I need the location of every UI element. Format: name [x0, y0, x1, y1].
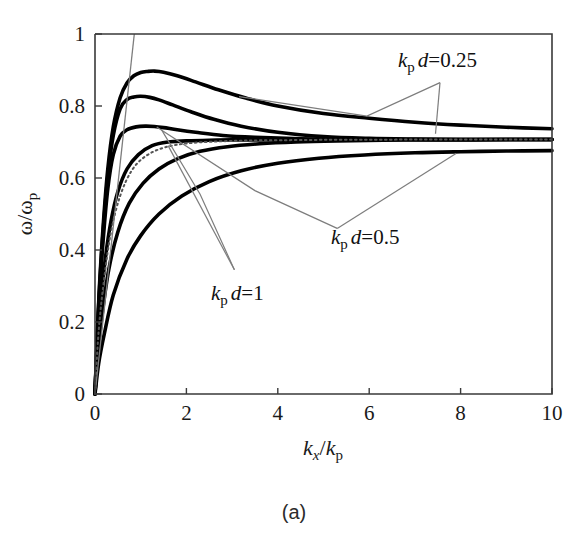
y-tick-label-0.2: 0.2 — [59, 310, 85, 334]
y-axis-omega2: ω — [12, 200, 37, 214]
ann025-sub: p — [407, 59, 415, 75]
y-tick-label-1: 1 — [75, 22, 86, 46]
ann05-sub: p — [340, 236, 348, 252]
y-tick-label-0: 0 — [75, 382, 86, 406]
x-tick-label-0: 0 — [90, 401, 101, 425]
figure-background — [0, 0, 588, 548]
annotation-kpd-1: kpd=1 — [211, 281, 264, 308]
figure-panel-a: 0246810 00.20.40.60.81 kx/kp ω/ωp kpd=0.… — [0, 0, 588, 548]
ann05-d: d — [351, 225, 362, 249]
ann025-eq: =0.25 — [428, 48, 477, 72]
ann1-sub: p — [220, 292, 228, 308]
ann025-d: d — [418, 48, 429, 72]
x-tick-label-6: 6 — [364, 401, 375, 425]
y-tick-label-0.8: 0.8 — [59, 94, 85, 118]
y-axis-sub: p — [24, 193, 40, 201]
ann1-eq: =1 — [241, 281, 263, 305]
x-tick-label-10: 10 — [542, 401, 563, 425]
x-axis-sub2: p — [335, 447, 343, 463]
ann1-d: d — [231, 281, 242, 305]
x-tick-label-2: 2 — [181, 401, 192, 425]
y-tick-label-0.4: 0.4 — [59, 238, 86, 262]
x-tick-label-8: 8 — [455, 401, 466, 425]
y-axis-omega1: ω — [12, 221, 37, 235]
y-tick-label-0.6: 0.6 — [59, 166, 85, 190]
panel-caption: (a) — [282, 501, 306, 523]
x-tick-label-4: 4 — [273, 401, 284, 425]
ann05-eq: =0.5 — [361, 225, 399, 249]
